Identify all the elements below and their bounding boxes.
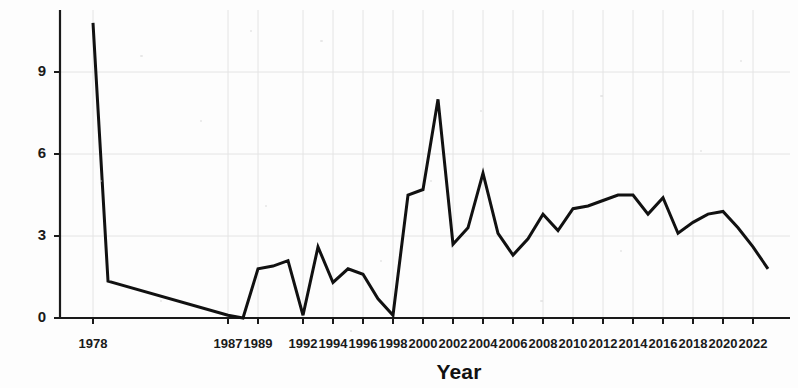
plot-area (0, 0, 798, 388)
scan-artifact (480, 110, 482, 112)
x-axis-tick-label: 2014 (619, 336, 648, 351)
data-series-line (93, 23, 768, 318)
x-axis-tick-label: 2016 (649, 336, 678, 351)
x-axis-tick-label: 2004 (469, 336, 498, 351)
scan-artifact (700, 150, 702, 152)
y-axis-tick-label: 0 (26, 308, 46, 325)
x-axis-tick-label: 1998 (379, 336, 408, 351)
x-axis-tick-label: 2008 (529, 336, 558, 351)
scan-artifact (600, 95, 603, 97)
x-axis-tick-label: 2020 (709, 336, 738, 351)
scan-artifact (380, 260, 382, 262)
scan-artifact (140, 55, 143, 57)
scan-artifact (540, 300, 543, 302)
x-axis-tick-label: 1992 (289, 336, 318, 351)
x-axis-tick-label: 2002 (439, 336, 468, 351)
x-axis-tick-label: 2000 (409, 336, 438, 351)
x-axis-tick-label: 2010 (559, 336, 588, 351)
x-axis-tick-label: 2006 (499, 336, 528, 351)
x-axis-tick-label: 2022 (739, 336, 768, 351)
x-axis-tick-label: 2012 (589, 336, 618, 351)
x-axis-tick-label: 1994 (319, 336, 348, 351)
scan-artifact (250, 30, 252, 32)
scan-artifact (160, 300, 162, 302)
y-axis-tick-label: 6 (26, 144, 46, 161)
y-axis-tick-label: 3 (26, 226, 46, 243)
scan-artifact (100, 180, 102, 182)
scan-artifact (265, 205, 267, 207)
scan-artifact (320, 40, 323, 42)
x-axis-tick-label: 1978 (79, 336, 108, 351)
scan-artifact (350, 330, 352, 332)
x-axis-tick-label: 1987 (214, 336, 243, 351)
x-axis-tick-label: 2018 (679, 336, 708, 351)
scan-artifact (200, 120, 202, 122)
y-axis-tick-label: 9 (26, 62, 46, 79)
x-axis-tick-label: 1989 (244, 336, 273, 351)
scan-artifact (740, 60, 742, 62)
scan-artifact (620, 250, 622, 252)
scan-artifact (430, 180, 432, 182)
x-axis-tick-label: 1996 (349, 336, 378, 351)
citations-by-year-chart: Citations Year 0369197819871989199219941… (0, 0, 798, 388)
